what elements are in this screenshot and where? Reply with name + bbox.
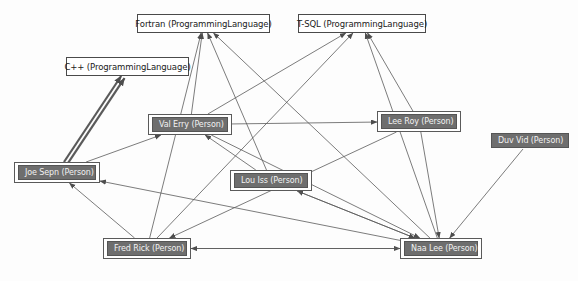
- node-fortran[interactable]: Fortran (ProgrammingLanguage): [137, 14, 270, 33]
- node-fred_rick[interactable]: Fred Rick (Person): [103, 238, 191, 259]
- edge-duv_vid-to-naa_lee: [450, 149, 523, 238]
- node-lee_roy[interactable]: Lee Roy (Person): [377, 111, 461, 132]
- node-label: Lee Roy (Person): [381, 114, 457, 129]
- node-label: Val Erry (Person): [152, 117, 228, 132]
- node-naa_lee[interactable]: Naa Lee (Person): [400, 238, 482, 259]
- node-joe_sepn[interactable]: Joe Sepn (Person): [14, 162, 100, 183]
- node-duv_vid[interactable]: Duv Vid (Person): [491, 132, 569, 149]
- edge-joe_sepn-to-cpp: [64, 76, 121, 162]
- edge-joe_sepn-to-val_erry: [86, 135, 161, 162]
- node-lou_iss[interactable]: Lou Iss (Person): [230, 170, 312, 191]
- edge-lou_iss-to-val_erry: [205, 135, 256, 170]
- node-cpp[interactable]: C++ (ProgrammingLanguage): [66, 57, 189, 76]
- edge-lou_iss-to-naa_lee: [297, 191, 415, 238]
- edge-naa_lee-to-tsql: [365, 33, 437, 238]
- edge-lee_roy-to-naa_lee: [421, 132, 439, 238]
- edge-val_erry-to-lee_roy: [232, 122, 377, 124]
- node-label: Naa Lee (Person): [404, 241, 478, 256]
- edge-lee_roy-to-tsql: [368, 33, 413, 111]
- edge-fred_rick-to-joe_sepn: [69, 183, 134, 238]
- node-label: Joe Sepn (Person): [18, 165, 96, 180]
- edge-naa_lee-to-fortran: [214, 33, 430, 238]
- node-tsql[interactable]: T-SQL (ProgrammingLanguage): [298, 14, 426, 33]
- edge-lou_iss-to-fortran: [208, 33, 267, 170]
- diagram-canvas: Fortran (ProgrammingLanguage)T-SQL (Prog…: [0, 0, 578, 281]
- node-label: Fred Rick (Person): [107, 241, 187, 256]
- node-label: Lou Iss (Person): [234, 173, 308, 188]
- node-label: Duv Vid (Person): [491, 133, 569, 148]
- edge-val_erry-to-tsql: [208, 33, 346, 114]
- node-val_erry[interactable]: Val Erry (Person): [148, 114, 232, 135]
- edge-val_erry-to-fortran: [191, 33, 202, 114]
